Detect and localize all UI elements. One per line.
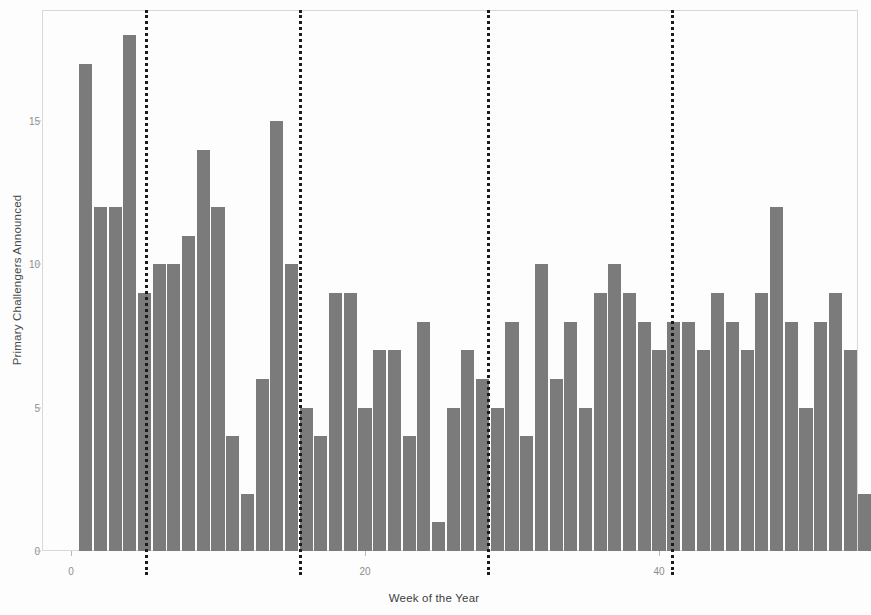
bar — [432, 522, 445, 551]
bar — [770, 207, 783, 551]
bars-container — [0, 0, 868, 551]
bar — [211, 207, 224, 551]
bar — [608, 264, 621, 551]
bars-inner — [0, 0, 868, 551]
x-tick-label: 0 — [68, 566, 74, 577]
x-tick-label: 40 — [653, 566, 664, 577]
bar — [285, 264, 298, 551]
x-tick-mark — [659, 551, 660, 556]
x-axis-label: Week of the Year — [0, 592, 868, 604]
x-tick-mark — [365, 551, 366, 556]
bar — [94, 207, 107, 551]
bar — [461, 350, 474, 551]
bar — [344, 293, 357, 551]
bar — [314, 436, 327, 551]
bar — [535, 264, 548, 551]
bar — [858, 494, 871, 551]
bar — [667, 322, 680, 551]
bar — [270, 121, 283, 551]
bar — [844, 350, 857, 551]
bar — [476, 379, 489, 551]
bar — [153, 264, 166, 551]
bar — [682, 322, 695, 551]
bar — [755, 293, 768, 551]
bar — [182, 236, 195, 551]
bar — [226, 436, 239, 551]
bar — [138, 293, 151, 551]
bar — [638, 322, 651, 551]
bar — [123, 35, 136, 551]
bar — [520, 436, 533, 551]
bar — [329, 293, 342, 551]
bar — [741, 350, 754, 551]
bar — [505, 322, 518, 551]
bar — [447, 408, 460, 551]
x-tick-mark — [71, 551, 72, 556]
bar — [256, 379, 269, 551]
bar — [388, 350, 401, 551]
bar — [579, 408, 592, 551]
bar — [300, 408, 313, 551]
bar — [550, 379, 563, 551]
bar — [373, 350, 386, 551]
bar — [799, 408, 812, 551]
bar — [623, 293, 636, 551]
x-tick-label: 20 — [359, 566, 370, 577]
bar — [358, 408, 371, 551]
bar — [167, 264, 180, 551]
bar — [711, 293, 724, 551]
bar — [79, 64, 92, 551]
bar — [829, 293, 842, 551]
bar — [109, 207, 122, 551]
bar — [594, 293, 607, 551]
bar — [785, 322, 798, 551]
bar — [491, 408, 504, 551]
bar — [652, 350, 665, 551]
bar — [241, 494, 254, 551]
bar — [726, 322, 739, 551]
bar — [197, 150, 210, 551]
bar — [564, 322, 577, 551]
bar — [814, 322, 827, 551]
bar — [417, 322, 430, 551]
bar — [403, 436, 416, 551]
bar — [697, 350, 710, 551]
